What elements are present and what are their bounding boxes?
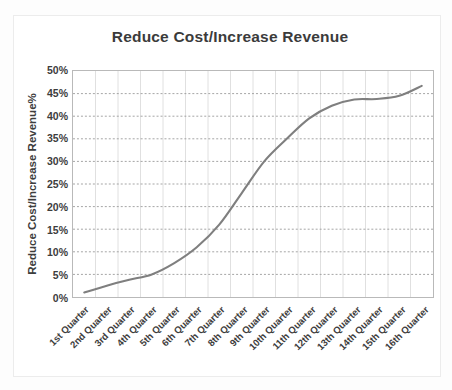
y-axis-tick-label: 30% [36,155,68,167]
y-axis-tick-labels: 50%45%40%35%30%25%20%15%10%5%0% [36,64,68,298]
y-axis-tick-label: 50% [36,64,68,76]
y-axis-tick-label: 40% [36,110,68,122]
y-axis-tick-label: 15% [36,224,68,236]
y-axis-tick-label: 20% [36,201,68,213]
plot-svg [73,71,433,297]
y-axis-tick-label: 5% [36,269,68,281]
chart-figure: Reduce Cost/Increase Revenue Reduce Cost… [0,0,452,390]
y-axis-tick-label: 45% [36,87,68,99]
chart-title: Reduce Cost/Increase Revenue [60,28,400,46]
y-axis-tick-label: 0% [36,292,68,304]
y-axis-tick-label: 10% [36,246,68,258]
x-axis-tick-labels: 1st Quarter2nd Quarter3rd Quarter4th Qua… [72,300,434,386]
plot-area [72,70,434,298]
y-axis-tick-label: 35% [36,132,68,144]
y-axis-tick-label: 25% [36,178,68,190]
